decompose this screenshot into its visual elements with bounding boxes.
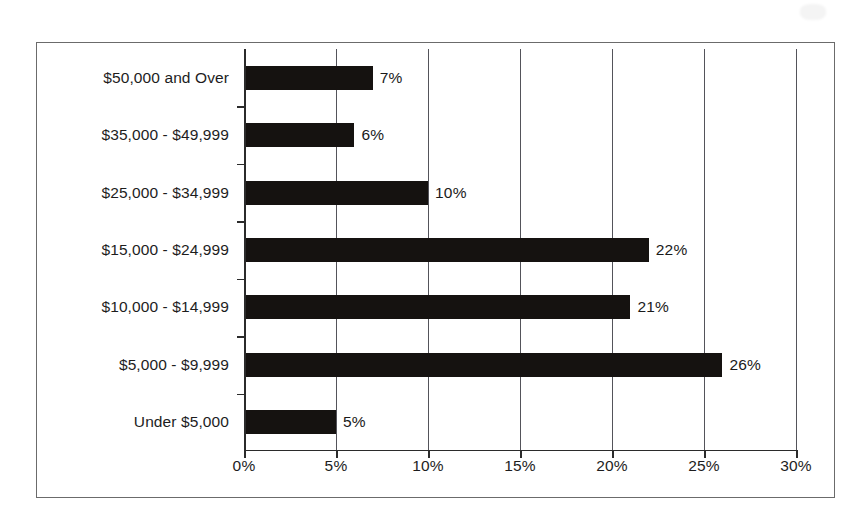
- y-tick-6: [237, 394, 244, 396]
- x-tick-label: 30%: [780, 457, 812, 475]
- bar: [244, 410, 336, 434]
- bar: [244, 295, 630, 319]
- y-axis-line: [244, 49, 246, 451]
- x-tick-label: 10%: [412, 457, 444, 475]
- bar-row: 22%: [244, 238, 796, 262]
- y-tick-3: [237, 221, 244, 223]
- category-label: $5,000 - $9,999: [119, 356, 229, 374]
- y-tick-4: [237, 279, 244, 281]
- bar-row: 21%: [244, 295, 796, 319]
- bar-value-label: 10%: [435, 184, 467, 202]
- y-tick-2: [237, 164, 244, 166]
- x-tick-label: 0%: [233, 457, 256, 475]
- bar-row: 26%: [244, 353, 796, 377]
- category-label: $15,000 - $24,999: [101, 241, 229, 259]
- bar-value-label: 26%: [729, 356, 761, 374]
- x-tick-label: 5%: [325, 457, 348, 475]
- bar-value-label: 7%: [380, 69, 403, 87]
- bar-value-label: 6%: [361, 126, 384, 144]
- category-label: $50,000 and Over: [103, 69, 229, 87]
- plot-area: 7%6%10%22%21%26%5%: [244, 49, 796, 451]
- bar-row: 7%: [244, 66, 796, 90]
- bar: [244, 181, 428, 205]
- x-tick-label: 25%: [688, 457, 720, 475]
- chart-frame: $50,000 and Over$35,000 - $49,999$25,000…: [36, 42, 835, 498]
- x-tick-label: 15%: [504, 457, 536, 475]
- bar: [244, 123, 354, 147]
- bar-value-label: 22%: [656, 241, 688, 259]
- category-label: $25,000 - $34,999: [101, 184, 229, 202]
- y-axis-category-labels: $50,000 and Over$35,000 - $49,999$25,000…: [37, 49, 229, 451]
- bar: [244, 238, 649, 262]
- scan-artifact: [800, 4, 826, 20]
- bar-value-label: 5%: [343, 413, 366, 431]
- bar-row: 5%: [244, 410, 796, 434]
- y-tick-5: [237, 336, 244, 338]
- bar: [244, 353, 722, 377]
- bar-row: 6%: [244, 123, 796, 147]
- y-tick-1: [237, 106, 244, 108]
- gridline-30: [796, 49, 797, 451]
- bar-row: 10%: [244, 181, 796, 205]
- bar-value-label: 21%: [637, 298, 669, 316]
- category-label: $35,000 - $49,999: [101, 126, 229, 144]
- x-axis-line: [244, 450, 796, 452]
- category-label: Under $5,000: [134, 413, 229, 431]
- x-axis-tick-labels: 0%5%10%15%20%25%30%: [244, 457, 796, 487]
- x-tick-label: 20%: [596, 457, 628, 475]
- category-label: $10,000 - $14,999: [101, 298, 229, 316]
- bar: [244, 66, 373, 90]
